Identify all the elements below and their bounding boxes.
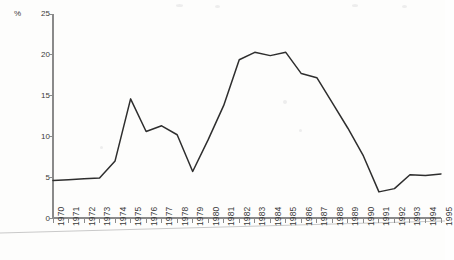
x-tick-label-1970: 1970: [57, 207, 66, 226]
x-tick-label-1984: 1984: [274, 207, 283, 226]
y-axis-ticks: [49, 14, 53, 218]
x-tick-label-1989: 1989: [351, 207, 360, 226]
x-tick-label-1980: 1980: [212, 207, 221, 226]
x-tick-label-1990: 1990: [367, 207, 376, 226]
x-tick-label-1986: 1986: [305, 207, 314, 226]
x-tick-label-1992: 1992: [398, 207, 407, 226]
x-tick-label-1988: 1988: [336, 207, 345, 226]
x-tick-label-1982: 1982: [243, 207, 252, 226]
x-tick-label-1973: 1973: [103, 207, 112, 226]
x-tick-label-1977: 1977: [165, 207, 174, 226]
x-tick-label-1983: 1983: [258, 207, 267, 226]
x-tick-label-1991: 1991: [382, 207, 391, 226]
x-tick-label-1987: 1987: [320, 207, 329, 226]
x-tick-label-1972: 1972: [88, 207, 97, 226]
x-tick-label-1974: 1974: [119, 207, 128, 226]
x-tick-label-1976: 1976: [150, 207, 159, 226]
x-tick-label-1981: 1981: [227, 207, 236, 226]
x-tick-label-1979: 1979: [196, 207, 205, 226]
x-tick-label-1994: 1994: [429, 207, 438, 226]
x-tick-label-1993: 1993: [413, 207, 422, 226]
x-tick-label-1971: 1971: [72, 207, 81, 226]
x-tick-label-1978: 1978: [181, 207, 190, 226]
data-series-line: [53, 52, 441, 192]
x-tick-label-1985: 1985: [289, 207, 298, 226]
x-tick-label-1975: 1975: [134, 207, 143, 226]
x-tick-label-1995: 1995: [445, 207, 454, 226]
scan-artifact-line: [0, 221, 445, 233]
